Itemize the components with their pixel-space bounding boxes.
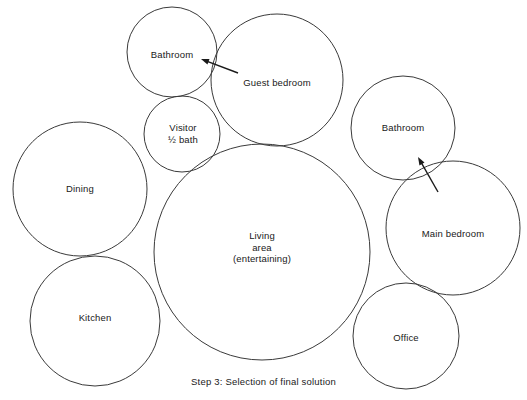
bubble-living-area bbox=[154, 144, 370, 360]
bubble-guest-bedroom bbox=[211, 14, 343, 146]
diagram-canvas bbox=[0, 0, 527, 400]
arrow-to-bathroom-right bbox=[418, 157, 438, 192]
arrows-group bbox=[201, 59, 438, 192]
bubble-kitchen bbox=[30, 256, 160, 386]
arrow-to-bathroom-upper bbox=[201, 59, 238, 73]
bubble-main-bedroom bbox=[386, 161, 520, 295]
bubble-bathroom-upper bbox=[127, 7, 217, 97]
arrow-to-bathroom-right-shaft bbox=[421, 162, 438, 192]
bubble-dining bbox=[13, 122, 147, 256]
arrow-to-bathroom-upper-head bbox=[201, 59, 210, 65]
arrow-to-bathroom-right-head bbox=[418, 157, 424, 165]
figure-caption: Step 3: Selection of final solution bbox=[0, 376, 527, 387]
bubble-bathroom-right bbox=[351, 76, 455, 180]
bubble-office bbox=[353, 283, 459, 389]
bubble-diagram-figure: BathroomGuest bedroomVisitor ½ bathBathr… bbox=[0, 0, 527, 400]
bubble-circles-group bbox=[13, 7, 520, 389]
bubble-visitor-half-bath bbox=[144, 96, 220, 172]
